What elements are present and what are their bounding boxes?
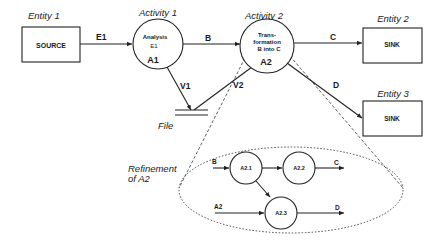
refinement-node-a2-3-label: A2.3 (275, 210, 287, 216)
activity-2-line1: Trans- (258, 32, 276, 38)
activity-1-caption: Activity 1 (138, 7, 177, 18)
activity-1-name: Analysis (143, 34, 168, 40)
activity-2-line2: formation (253, 39, 281, 45)
refinement-node-a2-2-label: A2.2 (293, 165, 305, 171)
refinement-input-b: B (212, 158, 217, 165)
activity-2-code: A2 (260, 57, 272, 67)
flow-d[interactable] (287, 63, 362, 118)
file-caption: File (158, 120, 173, 131)
flow-c-label: C (330, 32, 336, 42)
entity-1-caption: Entity 1 (28, 10, 60, 21)
flow-e1-label: E1 (96, 32, 107, 42)
activity-1-input: E1 (150, 43, 158, 49)
activity-1-code: A1 (147, 55, 159, 65)
entity-3-caption: Entity 3 (377, 88, 409, 99)
flow-v2[interactable] (194, 64, 256, 110)
activity-2-line3: B into C (258, 46, 282, 52)
entity-1-label: SOURCE (36, 42, 66, 49)
entity-2-label: SINK (384, 41, 400, 48)
refinement-output-d: D (335, 204, 340, 211)
flow-v1-label: V1 (180, 81, 191, 91)
refinement-output-c: C (334, 159, 339, 166)
refinement-caption-line2: of A2 (128, 173, 151, 184)
refinement-input-a2: A2 (214, 203, 223, 210)
data-flow-diagram: Entity 1 SOURCE E1 Activity 1 Analysis E… (0, 0, 442, 250)
flow-b-label: B (205, 33, 211, 43)
file-store[interactable] (175, 108, 208, 117)
entity-3-label: SINK (384, 115, 400, 122)
flow-d-label: D (333, 80, 339, 90)
flow-v2-label: V2 (233, 80, 244, 90)
refinement-node-a2-1-label: A2.1 (240, 165, 252, 171)
entity-2-caption: Entity 2 (377, 13, 409, 24)
